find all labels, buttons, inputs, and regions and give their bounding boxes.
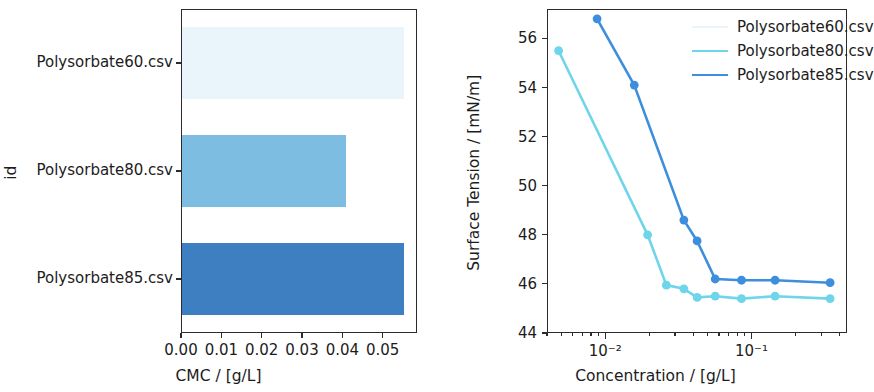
line-xtick-minor bbox=[821, 333, 822, 336]
line-xtick-minor bbox=[693, 333, 694, 336]
data-point bbox=[693, 293, 702, 302]
line-axis-bottom-spine bbox=[547, 332, 847, 333]
legend-item-polysorbate80[interactable]: Polysorbate80.csv bbox=[692, 42, 874, 60]
line-xtick-minor bbox=[546, 333, 547, 336]
legend-swatch-line-icon bbox=[692, 50, 728, 52]
bar-ytick-label: Polysorbate80.csv bbox=[36, 163, 173, 178]
bar-axis-left-spine bbox=[181, 9, 182, 333]
line-xtick-minor bbox=[744, 333, 745, 336]
line-ytick-mark bbox=[542, 283, 547, 284]
data-point bbox=[826, 278, 835, 287]
data-point bbox=[771, 276, 780, 285]
bar-xtick-label: 0.04 bbox=[326, 343, 359, 358]
line-xtick-label: 10⁻¹ bbox=[735, 344, 768, 359]
bar-xtick-mark bbox=[221, 333, 222, 338]
line-xtick-minor bbox=[572, 333, 573, 336]
data-point bbox=[771, 292, 780, 301]
line-xtick-minor bbox=[561, 333, 562, 336]
data-point bbox=[643, 230, 652, 239]
legend-swatch-line-icon bbox=[692, 74, 728, 76]
bar-polysorbate60 bbox=[181, 27, 404, 98]
line-ytick-mark bbox=[542, 185, 547, 186]
line-ytick-label: 56 bbox=[518, 31, 537, 46]
data-point bbox=[711, 275, 720, 284]
bar-polysorbate85 bbox=[181, 243, 404, 314]
bar-xtick-mark bbox=[301, 333, 302, 338]
series-line-polysorbate80 bbox=[559, 51, 831, 299]
line-chart-panel: 44464850525456 10⁻²10⁻¹ Concentration / … bbox=[437, 0, 874, 392]
bar-xtick-mark bbox=[382, 333, 383, 338]
bar-x-axis-title: CMC / [g/L] bbox=[0, 369, 437, 385]
line-axis-left-spine bbox=[547, 9, 548, 333]
bar-ytick-label: Polysorbate85.csv bbox=[36, 271, 173, 286]
line-ytick-label: 44 bbox=[518, 326, 537, 341]
line-ytick-mark bbox=[542, 38, 547, 39]
data-point bbox=[630, 81, 639, 90]
data-point bbox=[593, 14, 602, 23]
legend-item-polysorbate60[interactable]: Polysorbate60.csv bbox=[692, 18, 874, 36]
bar-xtick-label: 0.03 bbox=[285, 343, 318, 358]
data-point bbox=[679, 216, 688, 225]
bar-ytick-mark bbox=[176, 278, 181, 279]
line-xtick-minor bbox=[795, 333, 796, 336]
data-point bbox=[554, 46, 563, 55]
line-xtick-minor bbox=[582, 333, 583, 336]
line-xtick-major bbox=[751, 333, 752, 339]
line-ytick-label: 50 bbox=[518, 179, 537, 194]
data-point bbox=[693, 237, 702, 246]
line-xtick-minor bbox=[598, 333, 599, 336]
bar-xtick-mark bbox=[180, 333, 181, 338]
line-ytick-label: 48 bbox=[518, 228, 537, 243]
bar-xtick-label: 0.00 bbox=[164, 343, 197, 358]
legend-item-label: Polysorbate80.csv bbox=[737, 42, 874, 60]
line-xtick-major bbox=[605, 333, 606, 339]
bar-plot-area bbox=[181, 9, 417, 333]
data-point bbox=[711, 292, 720, 301]
line-xtick-minor bbox=[728, 333, 729, 336]
line-xtick-minor bbox=[737, 333, 738, 336]
figure-canvas: Polysorbate60.csvPolysorbate80.csvPolyso… bbox=[0, 0, 874, 392]
bar-y-axis-title: id bbox=[4, 153, 20, 193]
line-ytick-mark bbox=[542, 87, 547, 88]
bar-ytick-label: Polysorbate60.csv bbox=[36, 55, 173, 70]
line-y-axis-title: Surface Tension / [mN/m] bbox=[467, 73, 483, 273]
line-x-axis-title: Concentration / [g/L] bbox=[437, 369, 874, 385]
bar-polysorbate80 bbox=[181, 135, 346, 206]
bar-xtick-mark bbox=[342, 333, 343, 338]
bar-ytick-mark bbox=[176, 62, 181, 63]
line-xtick-label: 10⁻² bbox=[589, 344, 622, 359]
bar-xtick-label: 0.05 bbox=[366, 343, 399, 358]
bar-axis-right-spine bbox=[416, 9, 417, 333]
line-ytick-mark bbox=[542, 234, 547, 235]
line-xtick-minor bbox=[718, 333, 719, 336]
line-ytick-label: 54 bbox=[518, 81, 537, 96]
line-ytick-label: 46 bbox=[518, 277, 537, 292]
data-point bbox=[737, 276, 746, 285]
line-ytick-mark bbox=[542, 136, 547, 137]
data-point bbox=[737, 294, 746, 303]
line-xtick-minor bbox=[839, 333, 840, 336]
data-point bbox=[826, 294, 835, 303]
bar-chart-panel: Polysorbate60.csvPolysorbate80.csvPolyso… bbox=[0, 0, 437, 392]
line-xtick-minor bbox=[649, 333, 650, 336]
legend-item-polysorbate85[interactable]: Polysorbate85.csv bbox=[692, 66, 874, 84]
bar-ytick-mark bbox=[176, 170, 181, 171]
line-axis-top-spine bbox=[547, 9, 847, 10]
line-xtick-minor bbox=[707, 333, 708, 336]
bar-axis-top-spine bbox=[181, 9, 417, 10]
data-point bbox=[662, 281, 671, 290]
legend-item-label: Polysorbate85.csv bbox=[737, 66, 874, 84]
line-ytick-label: 52 bbox=[518, 130, 537, 145]
line-xtick-minor bbox=[674, 333, 675, 336]
bar-xtick-label: 0.02 bbox=[245, 343, 278, 358]
bar-xtick-mark bbox=[261, 333, 262, 338]
legend-swatch-line-icon bbox=[692, 26, 728, 28]
legend-item-label: Polysorbate60.csv bbox=[737, 18, 874, 36]
data-point bbox=[679, 284, 688, 293]
bar-xtick-label: 0.01 bbox=[205, 343, 238, 358]
line-xtick-minor bbox=[590, 333, 591, 336]
